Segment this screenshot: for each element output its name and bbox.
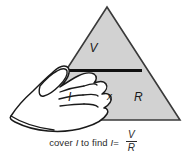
figure-caption: cover I to find I= V R — [0, 131, 186, 154]
triangle-label-resistance: R — [134, 91, 143, 103]
caption-text-line: cover I to find I= — [49, 138, 119, 148]
caption-equals: = — [113, 137, 119, 148]
triangle-label-multiply: x — [107, 92, 112, 102]
triangle-label-voltage: V — [0, 42, 186, 54]
triangle-label-current: I — [68, 91, 71, 103]
caption-prefix: cover — [49, 137, 75, 148]
hand-illustration — [10, 66, 111, 131]
fraction-denominator: R — [127, 143, 136, 154]
ohms-law-triangle-figure: V I x R cover I to find I= V R — [0, 0, 186, 163]
fraction-numerator: V — [127, 130, 136, 141]
caption-middle: to find — [78, 137, 110, 148]
caption-fraction: V R — [126, 130, 137, 153]
